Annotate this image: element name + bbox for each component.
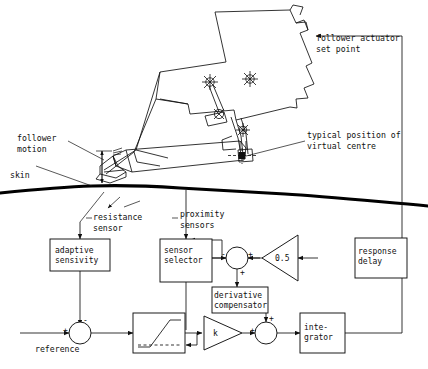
- callout-leader-lines: [36, 141, 305, 222]
- follower-actuator-set-point-label: follower actuator set point: [316, 33, 400, 54]
- sum3-top-plus-sign: +: [269, 314, 274, 323]
- sum2-plus-sign: +: [248, 250, 253, 259]
- adaptive-sensivity-block-label[interactable]: adaptive sensivity: [55, 246, 109, 265]
- diagram-vector-layer: [0, 0, 428, 369]
- integrator-block-label[interactable]: inte- grator: [304, 323, 346, 342]
- skin-label: skin: [10, 170, 30, 181]
- sum3-left-plus-sign: +: [250, 326, 255, 335]
- sum1-minus-sign: -: [83, 316, 88, 325]
- figure-canvas: follower actuator set point typical posi…: [0, 0, 428, 369]
- pivot-markers: [202, 71, 258, 137]
- derivative-compensator-block-label[interactable]: derivative compensator: [214, 291, 268, 310]
- machine-body-outline: [96, 5, 314, 183]
- gain-half-label: 0.5: [275, 254, 289, 263]
- gain-k-label: k: [213, 329, 218, 338]
- follower-motion-label: follower motion: [17, 133, 56, 154]
- gain-triangle-k: [204, 316, 242, 350]
- resistance-sensor-label: resistance sensor: [93, 212, 142, 233]
- skin-surface-line: [0, 186, 428, 206]
- proximity-sensors-label: proximity sensors: [180, 209, 224, 230]
- sum1-plus-sign: +: [63, 326, 68, 335]
- sum2-bottom-plus-sign: +: [240, 268, 245, 277]
- response-delay-block-label[interactable]: response delay: [358, 247, 406, 266]
- reference-label: reference: [35, 344, 79, 355]
- typical-position-virtual-centre-label: typical position of virtual centre: [307, 130, 401, 151]
- sum2-minus-sign: -: [221, 250, 226, 259]
- sensor-selector-block-label[interactable]: sensor selector: [164, 246, 212, 265]
